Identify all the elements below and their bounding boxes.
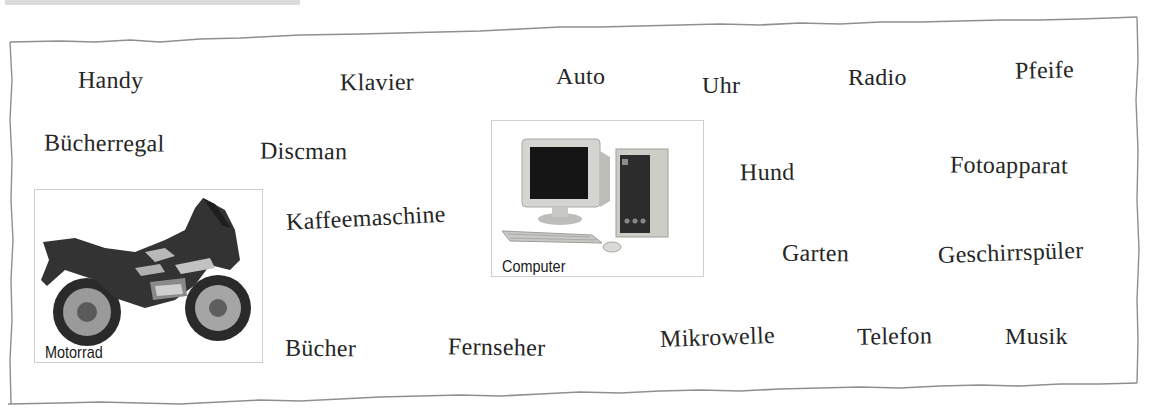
word-klavier: Klavier (340, 70, 414, 95)
word-discman: Discman (260, 139, 348, 164)
word-buecherregal: Bücherregal (44, 130, 165, 155)
motorrad-label: Motorrad (45, 344, 103, 361)
word-mikrowelle: Mikrowelle (660, 323, 776, 351)
computer-label: Computer (502, 258, 565, 275)
word-telefon: Telefon (857, 323, 932, 348)
word-fernseher: Fernseher (448, 334, 546, 360)
word-buecher: Bücher (285, 336, 356, 361)
word-musik: Musik (1005, 324, 1068, 348)
word-geschirrspueler: Geschirrspüler (938, 238, 1084, 267)
word-hund: Hund (740, 160, 795, 184)
word-uhr: Uhr (702, 73, 740, 97)
computer-image (492, 121, 705, 278)
motorrad-photo-card: Motorrad (34, 189, 263, 363)
word-fotoapparat: Fotoapparat (950, 152, 1068, 177)
word-auto: Auto (556, 64, 605, 88)
computer-photo-card: Computer (491, 120, 704, 277)
word-pfeife: Pfeife (1015, 57, 1075, 83)
word-radio: Radio (848, 65, 907, 89)
motorcycle-image (35, 190, 264, 364)
word-handy: Handy (78, 68, 144, 93)
word-garten: Garten (782, 241, 849, 266)
